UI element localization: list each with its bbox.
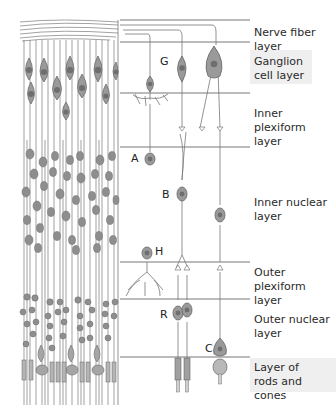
cell-label-r: R [160,308,168,321]
schematic-cell-bodies [142,46,226,356]
layer-label-outer-plexiform: Outer plexiform layer [254,266,336,308]
layer-label-rods-cones: Layer of rods and cones [254,361,336,403]
layer-label-ganglion-cell: Ganglion cell layer [254,55,304,83]
cell-label-c: C [205,342,213,355]
cell-label-a: A [131,152,139,165]
schematic-neurons [120,25,220,360]
layer-label-nerve-fiber: Nerve fiber layer [254,26,336,54]
histology-inner-nuclei [22,149,119,255]
cell-label-g: G [160,55,169,68]
histology-outer-nuclei [20,294,118,351]
layer-label-outer-nuclear: Outer nuclear layer [254,313,330,341]
layer-label-inner-plexiform: Inner plexiform layer [254,107,336,149]
cell-label-h: H [155,245,163,258]
cell-label-b: B [162,188,170,201]
layer-label-inner-nuclear: Inner nuclear layer [254,196,327,224]
histology-cones [36,345,104,375]
